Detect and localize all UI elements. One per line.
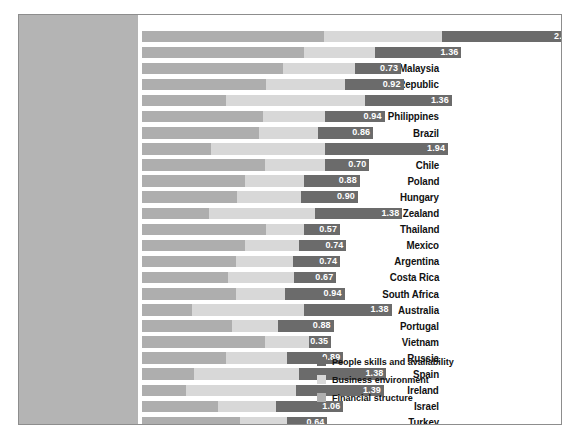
chart-row: Turkey0.64 [19,415,561,425]
legend-label: Financial structure [332,392,413,403]
chart-row: Portugal0.88 [19,319,561,335]
segment-business-environment [266,224,304,236]
segment-financial-structure [142,143,211,155]
segment-financial-structure [142,272,228,284]
stacked-bar: 1.36 [142,95,452,107]
segment-business-environment [237,191,300,203]
legend-item: People skills and availability [317,354,507,369]
segment-financial-structure [142,191,237,203]
stacked-bar: 0.57 [142,224,340,236]
chart-row: Poland0.88 [19,174,561,190]
chart-legend: People skills and availabilityBusiness e… [317,354,507,408]
segment-financial-structure [142,159,265,171]
segment-financial-structure [142,352,226,364]
segment-business-environment [218,401,276,413]
bar-value-label: 1.36 [431,95,449,107]
segment-financial-structure [142,95,226,107]
stacked-bar: 0.67 [142,272,336,284]
legend-item: Business environment [317,372,507,387]
segment-financial-structure [142,417,240,425]
bar-value-label: 0.94 [324,288,342,300]
stacked-bar: 1.06 [142,401,343,413]
chart-row: Mexico0.74 [19,238,561,254]
category-label: Mexico [406,238,439,254]
stacked-bar: 0.94 [142,111,385,123]
segment-business-environment [240,417,286,425]
chart-row: Singapore1.36 [19,93,561,109]
chart-row: Costa Rica0.67 [19,270,561,286]
segment-business-environment [194,368,299,380]
segment-business-environment [236,256,293,268]
segment-financial-structure [142,336,265,348]
bar-value-label: 1.36 [440,47,458,59]
segment-business-environment [304,47,375,59]
chart-row: Vietnam0.35 [19,335,561,351]
bar-value-label: 0.35 [310,336,328,348]
segment-business-environment [228,272,293,284]
segment-business-environment [209,208,315,220]
chart-row: Czech Republic0.92 [19,77,561,93]
segment-financial-structure [142,111,263,123]
chart-row: Malaysia0.73 [19,61,561,77]
segment-financial-structure [142,175,245,187]
stacked-bar: 0.35 [142,336,331,348]
segment-business-environment [283,63,355,75]
chart-frame: India2.09China1.36Malaysia0.73Czech Repu… [18,14,562,425]
category-label: Hungary [400,190,439,206]
business-swatch-icon [317,375,326,384]
segment-business-environment [245,175,303,187]
stacked-bar: 0.74 [142,256,340,268]
people-swatch-icon [317,357,326,366]
stacked-bar: 0.94 [142,288,345,300]
segment-business-environment [265,336,309,348]
bar-value-label: 0.92 [383,79,401,91]
bar-value-label: 0.86 [352,127,370,139]
bar-value-label: 1.38 [371,304,389,316]
segment-financial-structure [142,385,186,397]
stacked-bar: 1.36 [142,47,461,59]
bar-value-label: 0.94 [364,111,382,123]
bar-value-label: 0.70 [348,159,366,171]
category-label: South Africa [382,287,439,303]
category-label: Malaysia [399,61,439,77]
category-label: Vietnam [402,335,439,351]
bar-value-label: 0.74 [319,256,337,268]
category-label: Philippines [388,109,439,125]
stacked-bar: 0.88 [142,320,334,332]
chart-row: India2.09 [19,29,561,45]
segment-financial-structure [142,224,266,236]
bar-value-label: 0.73 [380,63,398,75]
bar-value-label: 0.67 [315,272,333,284]
chart-row: Brazil0.86 [19,126,561,142]
segment-business-environment [211,143,325,155]
chart-row: South Africa0.94 [19,287,561,303]
category-label: Costa Rica [389,270,439,286]
segment-business-environment [245,240,299,252]
chart-row: China1.36 [19,45,561,61]
segment-financial-structure [142,288,236,300]
financial-swatch-icon [317,393,326,402]
segment-business-environment [259,127,318,139]
stacked-bar: 1.38 [142,208,402,220]
segment-financial-structure [142,240,245,252]
stacked-bar: 0.74 [142,240,346,252]
chart-row: Chile0.70 [19,158,561,174]
segment-financial-structure [142,256,236,268]
category-label: Australia [398,303,439,319]
segment-financial-structure [142,368,194,380]
chart-row: Thailand0.57 [19,222,561,238]
segment-business-environment [226,352,286,364]
segment-business-environment [232,320,278,332]
bar-value-label: 0.88 [339,175,357,187]
segment-financial-structure [142,401,218,413]
category-label: Poland [407,174,439,190]
legend-label: Business environment [332,374,429,385]
chart-row: Hungary0.90 [19,190,561,206]
segment-financial-structure [142,208,209,220]
segment-financial-structure [142,47,304,59]
stacked-bar: 0.86 [142,127,373,139]
category-label: Turkey [408,415,439,425]
chart-row: Canada1.94 [19,142,561,158]
bar-value-label: 1.38 [381,208,399,220]
bar-value-label: 0.74 [326,240,344,252]
